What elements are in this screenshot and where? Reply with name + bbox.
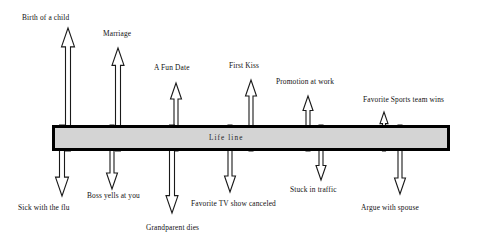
negative-event-label-4: Stuck in traffic: [290, 186, 337, 193]
positive-event-label-5: Favorite Sports team wins: [363, 96, 444, 103]
positive-event-label-2: A Fun Date: [154, 64, 190, 71]
positive-event-label-0: Birth of a child: [22, 14, 69, 21]
positive-event-label-4: Promotion at work: [276, 78, 334, 85]
negative-event-label-3: Favorite TV show canceled: [191, 200, 276, 207]
positive-event-label-3: First Kiss: [229, 62, 259, 69]
lifeline-bar-label: Life line: [209, 134, 243, 142]
negative-event-label-5: Argue with spouse: [361, 204, 419, 211]
negative-event-label-2: Grandparent dies: [146, 224, 199, 231]
negative-event-label-0: Sick with the flu: [18, 204, 70, 211]
lifeline-bar: [54, 127, 449, 150]
diagram-canvas: [0, 0, 482, 250]
lifeline-diagram: Life line Birth of a childMarriageA Fun …: [0, 0, 482, 250]
negative-event-label-1: Boss yells at you: [87, 192, 140, 199]
event-arrows: [56, 28, 406, 213]
positive-event-label-1: Marriage: [103, 30, 131, 37]
